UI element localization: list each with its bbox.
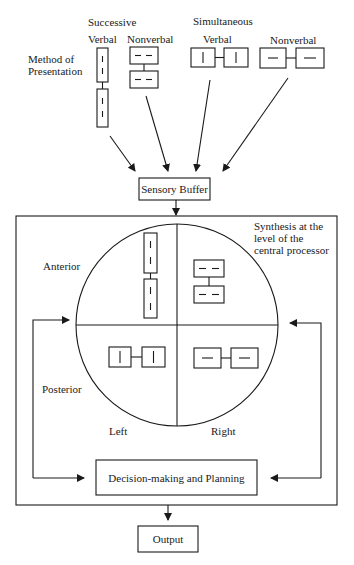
- anterior-right-stimulus: [194, 260, 224, 303]
- synthesis-label-line2: level of the: [254, 232, 303, 244]
- output-label: Output: [138, 526, 198, 552]
- synthesis-label-line1: Synthesis at the: [254, 220, 323, 232]
- arrow-successive-verbal: [110, 136, 135, 171]
- simultaneous-verbal-stimulus: [191, 48, 248, 67]
- posterior-left-stimulus: [109, 347, 165, 367]
- arrow-simultaneous-verbal: [196, 80, 210, 171]
- successive-verbal-label: Verbal: [88, 33, 117, 45]
- sensory-buffer-label: Sensory Buffer: [139, 178, 210, 200]
- simultaneous-nonverbal-label: Nonverbal: [270, 34, 316, 46]
- left-label: Left: [109, 425, 127, 437]
- arrow-simultaneous-nonverbal: [223, 78, 288, 171]
- simultaneous-label: Simultaneous: [193, 15, 253, 27]
- successive-label: Successive: [88, 16, 136, 28]
- simultaneous-verbal-label: Verbal: [203, 33, 232, 45]
- successive-verbal-stimulus: [97, 48, 108, 127]
- successive-nonverbal-stimulus: [130, 47, 158, 88]
- anterior-label: Anterior: [43, 260, 80, 272]
- posterior-right-stimulus: [194, 348, 258, 368]
- method-label-line1: Method of: [28, 53, 74, 65]
- right-feedback-arrow-up: [290, 323, 321, 478]
- left-feedback-arrow-up: [33, 320, 69, 478]
- method-label-line2: Presentation: [28, 65, 82, 77]
- simultaneous-nonverbal-stimulus: [260, 48, 324, 68]
- anterior-left-stimulus: [144, 233, 157, 318]
- arrow-successive-nonverbal: [146, 96, 168, 171]
- synthesis-label-line3: central processor: [254, 244, 329, 256]
- successive-nonverbal-label: Nonverbal: [127, 33, 173, 45]
- right-label: Right: [211, 425, 235, 437]
- decision-label: Decision-making and Planning: [96, 460, 257, 495]
- posterior-label: Posterior: [42, 383, 82, 395]
